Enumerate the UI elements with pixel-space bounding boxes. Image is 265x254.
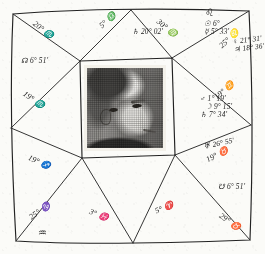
diagonal-bottom-left — [16, 158, 82, 241]
ray-left-midpoint-b — [11, 61, 80, 128]
diagonal-bottom-right — [175, 155, 250, 240]
horoscope-chart: ♌ ♒ 20° ♏ 5° ♎ 30° ♍ 25° ♌ 19° ♊ 19° ♉ 2… — [0, 0, 265, 254]
ray-top-midpoint — [80, 10, 131, 61]
ray-top-midpoint-b — [131, 10, 172, 58]
ray-right-midpoint — [172, 58, 251, 125]
portrait-tones — [87, 68, 163, 148]
center-portrait-photo — [84, 65, 166, 151]
ray-left-midpoint — [11, 128, 82, 158]
diagonal-top-left — [13, 14, 80, 61]
ray-right-midpoint-b — [175, 125, 251, 155]
diagonal-top-right — [172, 11, 249, 58]
ray-bottom-midpoint-b — [82, 158, 133, 243]
ray-bottom-midpoint — [133, 155, 175, 243]
